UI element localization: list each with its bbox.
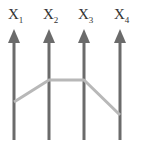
axis-arrow-x1 — [8, 29, 20, 140]
axis-arrow-x4 — [114, 29, 126, 140]
data-polyline — [14, 80, 120, 115]
parallel-coordinates-plot — [0, 0, 141, 156]
axis-arrow-x2 — [43, 29, 55, 140]
